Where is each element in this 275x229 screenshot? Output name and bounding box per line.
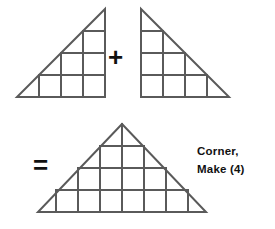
caption-line-2: Make (4) [197, 160, 275, 178]
result-triangle-unit [38, 124, 206, 212]
plus-operator-symbol: + [108, 44, 123, 70]
left-triangle-unit [17, 9, 105, 97]
equals-operator-symbol: = [33, 152, 48, 178]
quilt-diagram-svg [0, 0, 275, 229]
right-triangle-unit [141, 9, 229, 97]
quilt-block-diagram-page: + = Corner, Make (4) [0, 0, 275, 229]
caption-line-1: Corner, [197, 142, 275, 160]
block-caption: Corner, Make (4) [197, 142, 275, 178]
